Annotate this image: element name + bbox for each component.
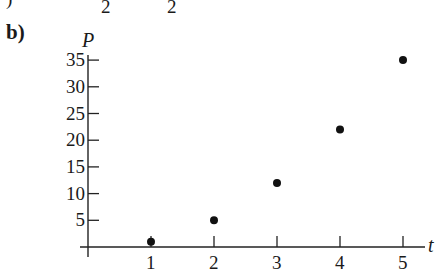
x-tick-label: 2 bbox=[209, 252, 219, 272]
y-tick-label: 20 bbox=[66, 129, 85, 151]
data-point bbox=[399, 56, 407, 64]
x-tick-label: 4 bbox=[335, 252, 345, 272]
y-tick-label: 35 bbox=[66, 49, 85, 71]
y-tick-label: 15 bbox=[66, 156, 85, 178]
data-point bbox=[210, 216, 218, 224]
x-tick-label: 5 bbox=[398, 252, 408, 272]
y-tick-label: 25 bbox=[66, 103, 85, 125]
y-tick-label: 10 bbox=[66, 183, 85, 205]
y-tick-label: 30 bbox=[66, 76, 85, 98]
data-point bbox=[147, 238, 155, 246]
data-point bbox=[273, 179, 281, 187]
y-tick-label: 5 bbox=[76, 209, 86, 231]
x-tick-label: 3 bbox=[272, 252, 282, 272]
data-point bbox=[336, 126, 344, 134]
x-tick-label: 1 bbox=[146, 252, 156, 272]
